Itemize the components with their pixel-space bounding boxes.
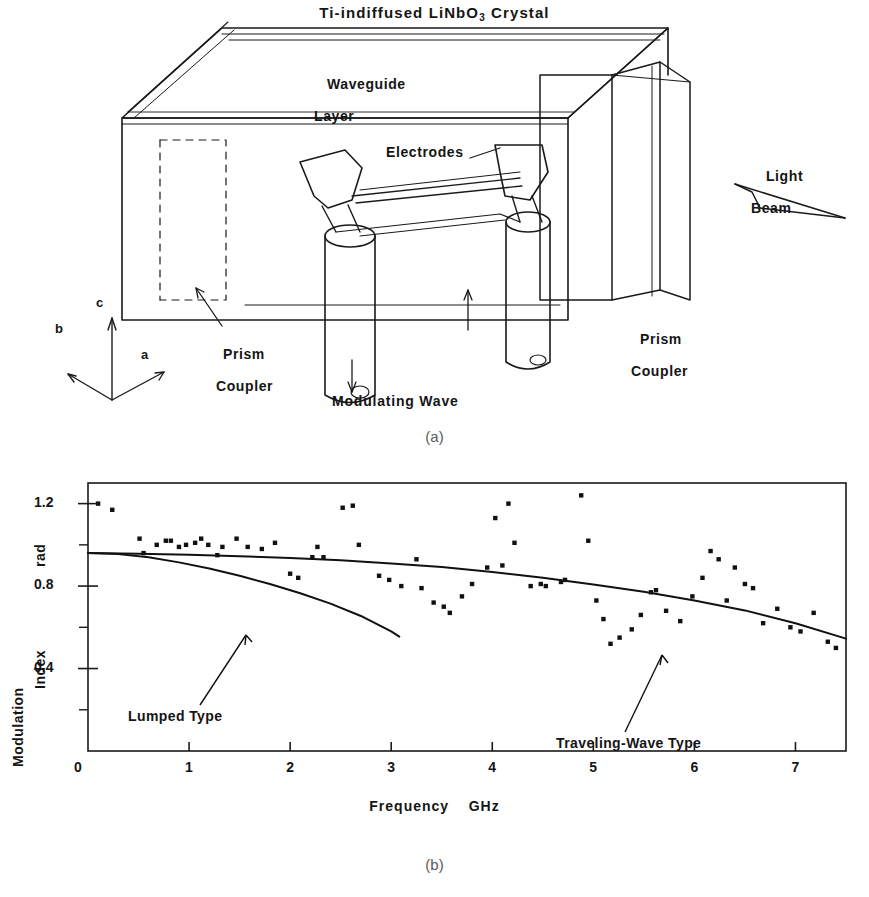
x-tick-label-3: 3: [387, 759, 395, 775]
y-tick-label-1.2: 1.2: [34, 494, 53, 510]
panel-b-caption: (b): [0, 856, 869, 873]
modulating-wave-label: Modulating Wave: [332, 393, 459, 409]
chart-panel: Modulation Index rad Frequency GHz Lumpe…: [0, 455, 869, 855]
crystal-axes-trihedron: [68, 318, 164, 400]
x-tick-label-1: 1: [185, 759, 193, 775]
x-tick-label-6: 6: [690, 759, 698, 775]
y-axis-label-modulation: Modulation: [10, 687, 26, 767]
annotation-traveling-wave-type: Traveling-Wave Type: [556, 735, 701, 751]
annotation-lumped-type: Lumped Type: [128, 708, 222, 724]
x-tick-label-4: 4: [488, 759, 496, 775]
x-axis-label: Frequency GHz: [0, 798, 869, 814]
coax-right-body: [506, 222, 550, 369]
device-diagram-panel: Ti-indiffused LiNbO3 Crystal Waveguide L…: [0, 0, 869, 420]
prism-right-plate-side: [660, 62, 690, 300]
electrodes-label: Electrodes: [386, 144, 464, 160]
electrodes-leader: [470, 148, 500, 158]
axis-b-label: b: [55, 322, 64, 337]
y-tick-label-0.8: 0.8: [34, 576, 53, 592]
axis-c-label: c: [96, 296, 104, 311]
panel-a-caption: (a): [0, 428, 869, 445]
prism-coupler-left-label: Prism Coupler: [196, 330, 273, 427]
waveguide-layer-label: Waveguide Layer: [300, 60, 406, 157]
crystal-title: Ti-indiffused LiNbO3 Crystal: [0, 4, 869, 21]
modulation-index-chart: [0, 455, 869, 855]
coax-left-top: [325, 225, 375, 247]
electrode-left-pad: [300, 150, 362, 208]
modulating-wave-arrow-right: [464, 290, 472, 330]
axis-a-label: a: [141, 348, 149, 363]
coax-right-top: [506, 212, 550, 232]
waveguide-dashed-outline: [160, 140, 226, 300]
y-axis-label-group: Modulation Index rad: [2, 473, 32, 773]
light-beam-label: Light Beam: [739, 152, 803, 249]
prism-coupler-right-label: Prism Coupler: [613, 315, 688, 412]
y-axis-label-rad: rad: [32, 544, 48, 567]
x-tick-label-5: 5: [589, 759, 597, 775]
x-tick-label-2: 2: [286, 759, 294, 775]
prism-right-plate-wedge: [612, 62, 660, 300]
y-tick-label-0.4: 0.4: [34, 659, 53, 675]
x-tick-label-0: 0: [74, 759, 82, 775]
x-tick-label-7: 7: [791, 759, 799, 775]
figure-root: Ti-indiffused LiNbO3 Crystal Waveguide L…: [0, 0, 869, 897]
